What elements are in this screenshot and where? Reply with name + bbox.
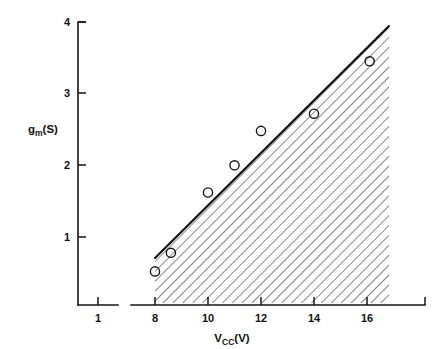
x-axis-tick-labels: 1 8 10 12 14 16	[95, 312, 373, 324]
x-tick-label-8: 8	[152, 312, 158, 324]
x-tick-label-12: 12	[255, 312, 267, 324]
y-axis-ticks	[78, 22, 86, 237]
y-tick-label-1: 1	[64, 231, 70, 243]
data-point	[256, 126, 265, 135]
x-tick-label-16: 16	[361, 312, 373, 324]
y-axis-title: gm(S)	[28, 123, 58, 138]
x-axis-title: VCC(V)	[214, 332, 249, 347]
y-tick-label-4: 4	[64, 16, 71, 28]
y-tick-label-3: 3	[64, 87, 70, 99]
y-axis-title-base: g	[28, 123, 35, 135]
y-tick-label-2: 2	[64, 159, 70, 171]
data-point	[203, 188, 212, 197]
y-axis-tick-labels: 4 3 2 1	[64, 16, 71, 243]
y-axis-title-unit: (S)	[43, 123, 59, 135]
x-tick-label-14: 14	[308, 312, 321, 324]
shaded-region	[155, 26, 389, 303]
data-point	[230, 161, 239, 170]
gm-vs-vcc-scatter-chart: 4 3 2 1 1 8 10 12 14 16 gm(S)	[0, 0, 442, 349]
x-axis-title-unit: (V)	[234, 332, 250, 344]
x-tick-label-1: 1	[95, 312, 101, 324]
x-axis-title-subscript: CC	[222, 337, 234, 347]
x-tick-label-10: 10	[202, 312, 214, 324]
chart-container: 4 3 2 1 1 8 10 12 14 16 gm(S)	[0, 0, 442, 349]
